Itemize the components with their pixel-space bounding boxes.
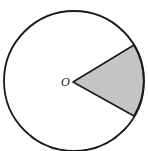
circle-sector-diagram: O	[0, 0, 148, 151]
center-label: O	[61, 76, 70, 89]
shaded-sector	[73, 45, 144, 116]
